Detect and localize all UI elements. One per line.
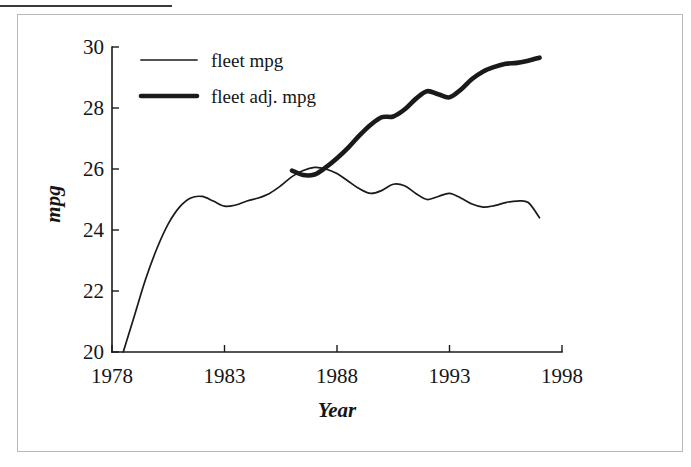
y-tick-label: 28 — [83, 96, 104, 120]
x-axis-title: Year — [318, 398, 357, 422]
y-axis-ticks — [112, 47, 119, 352]
x-tick-label: 1988 — [316, 364, 358, 388]
legend-label-fleet-adj-mpg: fleet adj. mpg — [211, 86, 316, 107]
y-tick-label: 24 — [83, 218, 105, 242]
series-line-fleet-adj-mpg — [292, 58, 540, 176]
y-tick-label: 26 — [83, 157, 104, 181]
y-tick-label: 20 — [83, 340, 104, 364]
y-tick-label: 30 — [83, 35, 104, 59]
top-rule-divider — [0, 5, 172, 7]
x-tick-label: 1978 — [91, 364, 133, 388]
x-tick-label: 1998 — [541, 364, 583, 388]
chart-legend: fleet mpg fleet adj. mpg — [141, 50, 316, 107]
y-axis-title: mpg — [41, 185, 65, 222]
series-line-fleet-mpg — [123, 167, 539, 352]
x-axis-ticks — [112, 345, 562, 352]
x-tick-label: 1993 — [429, 364, 471, 388]
x-tick-label: 1983 — [204, 364, 246, 388]
y-tick-label: 22 — [83, 279, 104, 303]
mpg-line-chart: 20 22 24 26 28 30 1978 1983 1988 1993 19… — [17, 14, 683, 452]
figure-page: 20 22 24 26 28 30 1978 1983 1988 1993 19… — [0, 0, 691, 467]
legend-label-fleet-mpg: fleet mpg — [211, 50, 284, 71]
